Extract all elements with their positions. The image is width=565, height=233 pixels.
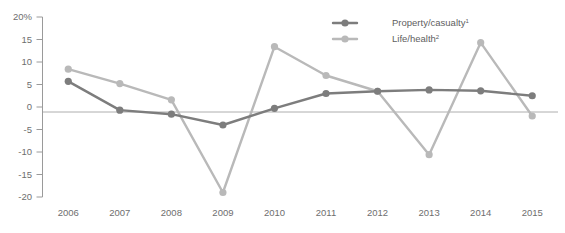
- x-tick-label-2011: 2011: [316, 207, 336, 218]
- data-point: [65, 66, 72, 73]
- y-tick-label: -20: [18, 191, 32, 202]
- data-point: [477, 87, 484, 94]
- legend-footnote-marker: 1: [465, 18, 469, 24]
- series-path: [68, 43, 532, 193]
- data-point: [116, 107, 123, 114]
- y-tick-marks: [37, 17, 43, 197]
- x-tick-label-2013: 2013: [419, 207, 440, 218]
- chart-legend: Property/casualty1Life/health2: [333, 17, 469, 44]
- data-point: [374, 88, 381, 95]
- legend-item-property-casualty: Property/casualty1: [333, 17, 469, 28]
- data-point: [219, 121, 226, 128]
- x-tick-labels: 2006200720082009201020112012201320142015: [58, 207, 543, 218]
- chart-canvas: 20%151050-5-10-15-20 2006200720082009201…: [0, 0, 565, 233]
- data-point: [116, 80, 123, 87]
- legend-swatch-dot: [341, 19, 348, 26]
- x-tick-label-2015: 2015: [522, 207, 543, 218]
- data-point: [271, 105, 278, 112]
- series-layer: [65, 39, 536, 196]
- series-life-health: [65, 39, 536, 196]
- legend-swatch-dot: [341, 35, 348, 42]
- y-tick-label: -10: [18, 146, 32, 157]
- series-property-casualty: [65, 78, 536, 129]
- data-point: [322, 72, 329, 79]
- x-tick-label-2014: 2014: [470, 207, 491, 218]
- data-point: [168, 111, 175, 118]
- x-tick-label-2006: 2006: [58, 207, 79, 218]
- x-tick-label-2010: 2010: [264, 207, 285, 218]
- y-tick-label: -5: [24, 124, 32, 135]
- series-path: [68, 81, 532, 125]
- y-tick-label: 10: [21, 56, 32, 67]
- legend-label: Property/casualty1: [392, 17, 469, 28]
- data-point: [322, 90, 329, 97]
- y-tick-label: 15: [21, 34, 32, 45]
- x-tick-label-2007: 2007: [109, 207, 130, 218]
- x-tick-label-2008: 2008: [161, 207, 182, 218]
- y-tick-label: 0: [27, 101, 32, 112]
- x-tick-label-2009: 2009: [212, 207, 233, 218]
- legend-label: Life/health2: [392, 33, 440, 44]
- line-chart: 20%151050-5-10-15-20 2006200720082009201…: [0, 0, 565, 233]
- data-point: [219, 189, 226, 196]
- y-tick-label: -15: [18, 169, 32, 180]
- legend-footnote-marker: 2: [436, 34, 440, 40]
- y-tick-labels: 20%151050-5-10-15-20: [13, 11, 33, 202]
- y-tick-label: 20%: [13, 11, 33, 22]
- data-point: [477, 39, 484, 46]
- legend-item-life-health: Life/health2: [333, 33, 440, 44]
- data-point: [65, 78, 72, 85]
- y-tick-label: 5: [27, 79, 32, 90]
- data-point: [426, 151, 433, 158]
- x-tick-label-2012: 2012: [367, 207, 388, 218]
- data-point: [426, 86, 433, 93]
- data-point: [168, 96, 175, 103]
- data-point: [529, 112, 536, 119]
- data-point: [529, 92, 536, 99]
- data-point: [271, 43, 278, 50]
